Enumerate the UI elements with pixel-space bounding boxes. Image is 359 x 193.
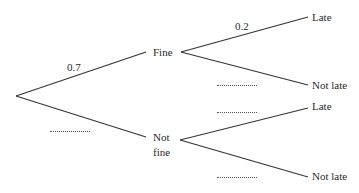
node-notfine-late: Late	[312, 100, 332, 113]
prob-fine-late: 0.2	[235, 20, 249, 33]
node-notfine-notlate: Not late	[312, 170, 347, 183]
node-fine-notlate: Not late	[312, 79, 347, 92]
prob-notfine-late-blank[interactable]	[217, 112, 257, 113]
prob-root-notfine-blank[interactable]	[50, 131, 90, 132]
node-fine-late: Late	[312, 11, 332, 24]
node-fine: Fine	[153, 46, 173, 59]
branch-root-fine	[16, 52, 146, 96]
branch-notfine-notlate	[180, 140, 308, 177]
branch-fine-notlate	[181, 52, 308, 85]
prob-root-fine: 0.7	[67, 61, 81, 74]
prob-fine-notlate-blank[interactable]	[217, 85, 257, 86]
tree-lines	[0, 0, 359, 193]
node-notfine-line1: Not	[153, 131, 170, 144]
node-notfine-line2: fine	[153, 146, 170, 159]
prob-notfine-notlate-blank[interactable]	[217, 177, 257, 178]
